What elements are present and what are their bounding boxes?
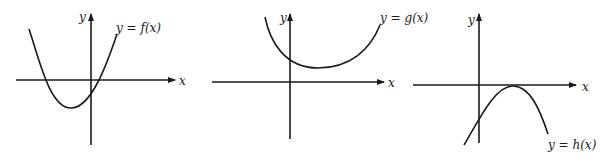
curve-label-g: y = g(x) bbox=[379, 11, 429, 25]
graph-g: y x y = g(x) bbox=[212, 11, 429, 139]
three-graphs-diagram: y x y = f(x) y x y = g(x) y x y = h(x) bbox=[0, 0, 607, 162]
y-axis-label: y bbox=[467, 13, 475, 27]
x-axis-label: x bbox=[388, 76, 395, 90]
curve-h bbox=[464, 86, 548, 145]
x-axis-label: x bbox=[179, 74, 186, 88]
y-axis-label: y bbox=[279, 11, 287, 25]
curve-f bbox=[29, 29, 117, 108]
graph-h: y x y = h(x) bbox=[413, 13, 597, 152]
curve-label-h: y = h(x) bbox=[547, 138, 597, 152]
y-axis-label: y bbox=[78, 10, 86, 24]
x-axis-label: x bbox=[582, 80, 589, 94]
curve-label-f: y = f(x) bbox=[115, 21, 161, 35]
graph-f: y x y = f(x) bbox=[16, 10, 186, 145]
